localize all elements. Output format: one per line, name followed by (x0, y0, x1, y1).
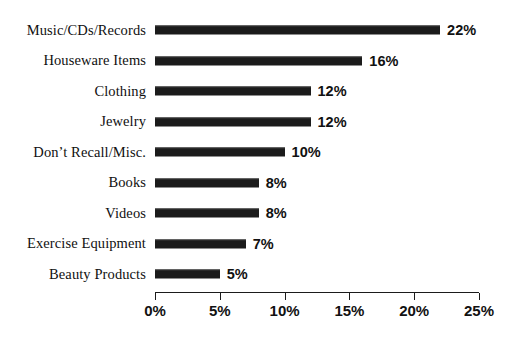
bar-value-label: 22% (447, 23, 476, 38)
bar-value-label: 8% (266, 206, 287, 221)
bar (155, 209, 259, 218)
bar-value-label: 7% (253, 236, 274, 251)
category-label: Beauty Products (0, 267, 146, 282)
bar-row: Books8% (0, 167, 513, 199)
x-axis-tick (155, 293, 156, 300)
bar (155, 270, 220, 279)
x-axis-tick-label: 25% (464, 303, 494, 318)
category-label: Music/CDs/Records (0, 23, 146, 38)
x-axis-tick (414, 293, 415, 300)
category-label: Jewelry (0, 114, 146, 129)
bar-value-label: 8% (266, 175, 287, 190)
bar (155, 178, 259, 187)
bar (155, 87, 311, 96)
bar-row: Beauty Products5% (0, 258, 513, 290)
bar-group: 22% (155, 26, 476, 35)
bar-row: Jewelry12% (0, 106, 513, 138)
category-label: Books (0, 175, 146, 190)
x-axis-tick-label: 0% (144, 303, 166, 318)
x-axis-line (155, 292, 479, 293)
bar-row: Don’t Recall/Misc.10% (0, 136, 513, 168)
x-axis-tick (285, 293, 286, 300)
x-axis-tick (349, 293, 350, 300)
category-label: Don’t Recall/Misc. (0, 145, 146, 160)
x-axis-tick-label: 20% (399, 303, 429, 318)
bar (155, 148, 285, 157)
category-label: Exercise Equipment (0, 236, 146, 251)
category-label: Clothing (0, 84, 146, 99)
bar-row: Clothing12% (0, 75, 513, 107)
bar-row: Music/CDs/Records22% (0, 14, 513, 46)
bar (155, 239, 246, 248)
bar-value-label: 12% (318, 84, 347, 99)
x-axis-tick-label: 5% (209, 303, 231, 318)
bar-group: 16% (155, 56, 398, 65)
bar-value-label: 16% (369, 53, 398, 68)
bar-group: 10% (155, 148, 321, 157)
bar-chart: Music/CDs/Records22%Houseware Items16%Cl… (0, 0, 513, 343)
plot-area: Music/CDs/Records22%Houseware Items16%Cl… (0, 0, 513, 292)
bar-value-label: 12% (318, 114, 347, 129)
bar-value-label: 5% (227, 267, 248, 282)
category-label: Videos (0, 206, 146, 221)
x-axis-tick (479, 293, 480, 300)
x-axis-tick-label: 15% (334, 303, 364, 318)
category-label: Houseware Items (0, 53, 146, 68)
bar (155, 56, 362, 65)
bar-value-label: 10% (292, 145, 321, 160)
bar-row: Houseware Items16% (0, 45, 513, 77)
bar-group: 7% (155, 239, 274, 248)
bar-group: 8% (155, 209, 287, 218)
bar-row: Exercise Equipment7% (0, 228, 513, 260)
bar-group: 5% (155, 270, 248, 279)
bar-group: 12% (155, 87, 347, 96)
bar-group: 12% (155, 117, 347, 126)
bar (155, 117, 311, 126)
bar (155, 26, 440, 35)
x-axis-tick-label: 10% (270, 303, 300, 318)
x-axis-tick (220, 293, 221, 300)
bar-group: 8% (155, 178, 287, 187)
bar-row: Videos8% (0, 197, 513, 229)
